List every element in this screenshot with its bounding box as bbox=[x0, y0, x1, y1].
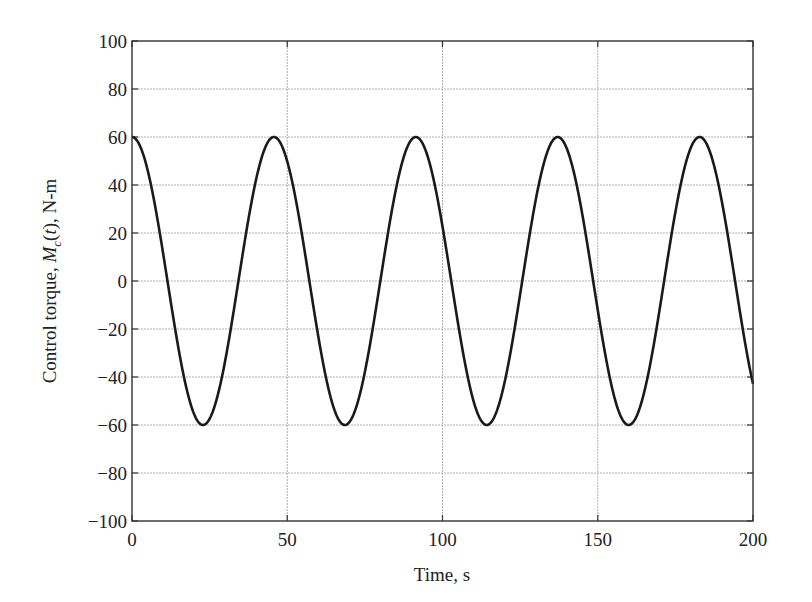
x-tick-label: 50 bbox=[278, 529, 297, 550]
y-tick-label: −40 bbox=[97, 367, 127, 388]
y-tick-label: 20 bbox=[108, 223, 127, 244]
y-tick-labels: 100806040200−20−40−60−80−100 bbox=[88, 31, 127, 532]
x-tick-label: 200 bbox=[739, 529, 768, 550]
y-tick-label: 100 bbox=[99, 31, 128, 52]
y-tick-label: −20 bbox=[97, 319, 127, 340]
y-tick-label: −80 bbox=[97, 463, 127, 484]
x-tick-label: 0 bbox=[127, 529, 137, 550]
x-axis-label: Time, s bbox=[414, 564, 470, 585]
x-tick-label: 100 bbox=[428, 529, 457, 550]
y-axis-label: Control torque, Mc(t), N-m bbox=[39, 178, 64, 383]
y-tick-label: 0 bbox=[118, 271, 128, 292]
chart: 050100150200 100806040200−20−40−60−80−10… bbox=[0, 0, 812, 602]
grid-lines bbox=[132, 41, 753, 521]
y-tick-label: 80 bbox=[108, 79, 127, 100]
y-tick-label: 40 bbox=[108, 175, 127, 196]
x-tick-labels: 050100150200 bbox=[127, 529, 767, 550]
y-tick-label: −100 bbox=[88, 511, 127, 532]
x-tick-label: 150 bbox=[584, 529, 613, 550]
y-tick-label: 60 bbox=[108, 127, 127, 148]
y-tick-label: −60 bbox=[97, 415, 127, 436]
